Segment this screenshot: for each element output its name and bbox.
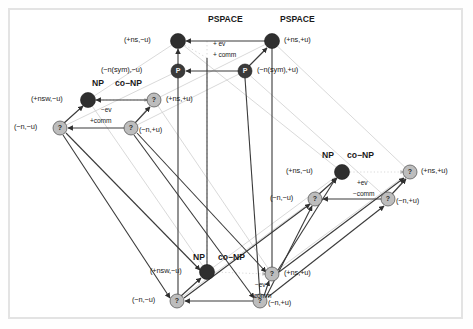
node-right-back-right[interactable] xyxy=(403,165,417,179)
node-left-back-left[interactable] xyxy=(81,93,96,108)
edge-bottom-br-to-right-bl xyxy=(278,178,336,270)
nodes xyxy=(53,34,417,309)
node-label-right-back-left: (+ns,−u) xyxy=(286,167,313,174)
node-left-back-right[interactable] xyxy=(147,93,161,107)
node-label-bottom-front-right: (−n,+u) xyxy=(268,299,291,306)
edge-faint-right-to-bottom-2 xyxy=(272,172,410,274)
op-label-bottom-ev: −ev xyxy=(255,282,266,289)
node-label-left-front-left: (−n,−u) xyxy=(14,123,37,130)
class-label-top-right: PSPACE xyxy=(280,15,315,24)
node-label-bottom-back-right: (+ns,+u) xyxy=(284,269,311,276)
edge-bottom-br-to-right-br xyxy=(279,178,404,272)
node-right-front-right[interactable] xyxy=(381,192,395,206)
class-label-bottom-conp: co−NP xyxy=(218,253,245,262)
figure-canvas: P P ? ? ? ? ? ? ? ? ? PSPACE PSPACE NP c… xyxy=(0,0,473,329)
node-top-front-left[interactable] xyxy=(171,64,185,78)
node-top-back-left[interactable] xyxy=(171,34,186,49)
class-label-right-np: NP xyxy=(322,151,334,160)
node-label-top-front-right: (−n(sym),+u) xyxy=(257,66,298,73)
class-label-left-conp: co−NP xyxy=(115,79,142,88)
op-label-right-ev: +ev xyxy=(357,180,368,187)
node-right-back-left[interactable] xyxy=(335,165,350,180)
node-label-left-back-left: (+nsw,−u) xyxy=(31,95,63,102)
edges-faint xyxy=(60,41,410,301)
node-label-bottom-back-left: (+nsw,−u) xyxy=(150,267,182,274)
node-label-right-front-left: (−n,−u) xyxy=(270,194,293,201)
node-bottom-front-left[interactable] xyxy=(170,294,184,308)
node-label-bottom-front-left: (−n,−u) xyxy=(132,296,155,303)
lattice-diagram xyxy=(0,0,473,329)
node-label-left-back-right: (+ns,+u) xyxy=(166,95,193,102)
node-right-front-left[interactable] xyxy=(308,192,322,206)
edge-top-fr-to-br xyxy=(249,48,267,66)
node-label-top-back-right: (+ns,+u) xyxy=(284,36,311,43)
edge-bottom-fr-to-right-fr xyxy=(268,206,384,297)
edge-left-fl-to-bottom-bl xyxy=(66,133,200,270)
edge-faint-top-to-right-3 xyxy=(178,41,342,172)
edge-faint-top-to-right-1 xyxy=(272,41,410,172)
op-label-left-ev: −ev xyxy=(101,107,112,114)
node-label-top-back-left: (+ns,−u) xyxy=(124,36,151,43)
class-label-left-np: NP xyxy=(92,79,104,88)
edge-left-fr-to-br xyxy=(135,107,150,123)
class-label-bottom-np: NP xyxy=(193,253,205,262)
node-top-front-right[interactable] xyxy=(238,64,252,78)
op-label-right-comm: −comm xyxy=(353,191,374,198)
node-label-left-front-right: (−n,+u) xyxy=(139,126,162,133)
class-label-right-conp: co−NP xyxy=(347,151,374,160)
node-bottom-back-right[interactable] xyxy=(265,267,279,281)
node-top-back-right[interactable] xyxy=(265,34,280,49)
op-label-top-ev: + ev xyxy=(213,41,225,48)
class-label-top-left: PSPACE xyxy=(208,15,243,24)
node-left-front-right[interactable] xyxy=(124,121,138,135)
edge-bottom-fl-to-right-fl xyxy=(184,204,310,298)
node-bottom-back-left[interactable] xyxy=(200,265,215,280)
node-label-right-back-right: (+ns,+u) xyxy=(421,167,448,174)
node-left-front-left[interactable] xyxy=(53,121,67,135)
op-label-left-comm: +comm xyxy=(90,118,111,125)
node-label-top-front-left: (−n(sym),−u) xyxy=(101,66,142,73)
node-label-right-front-right: (−n,+u) xyxy=(396,197,419,204)
op-label-top-comm: + comm xyxy=(213,52,236,59)
edge-left-fl-to-bl xyxy=(64,106,83,123)
